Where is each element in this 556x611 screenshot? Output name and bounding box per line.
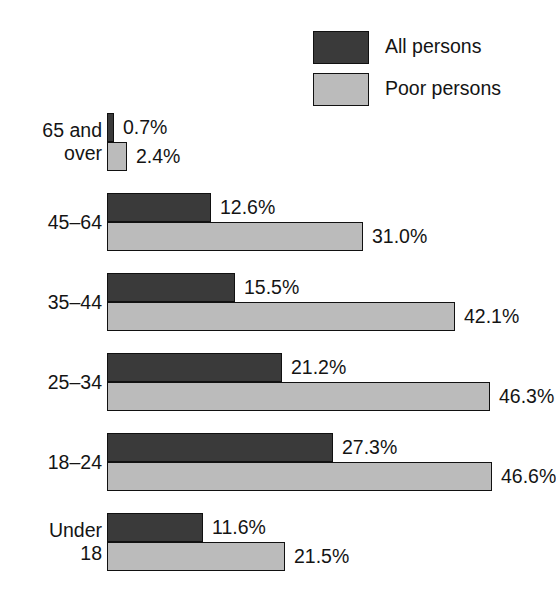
bar-value-label: 15.5% bbox=[244, 278, 299, 298]
bar-all-persons bbox=[107, 113, 114, 142]
bar-row: 46.6% bbox=[107, 462, 542, 491]
bar-row: 42.1% bbox=[107, 302, 542, 331]
bar-group: 35–4415.5%42.1% bbox=[0, 273, 542, 333]
category-label: 25–34 bbox=[0, 371, 102, 394]
bar-value-label: 12.6% bbox=[220, 198, 275, 218]
category-label: 65 and over bbox=[0, 119, 102, 165]
bar-all-persons bbox=[107, 353, 282, 382]
bar-group: 18–2427.3%46.6% bbox=[0, 433, 542, 493]
bar-value-label: 11.6% bbox=[212, 518, 266, 538]
bar-group: 45–6412.6%31.0% bbox=[0, 193, 542, 253]
bar-row: 21.5% bbox=[107, 542, 542, 571]
bar-group: 25–3421.2%46.3% bbox=[0, 353, 542, 413]
bar-value-label: 21.2% bbox=[291, 358, 346, 378]
bar-value-label: 31.0% bbox=[372, 227, 427, 247]
bar-all-persons bbox=[107, 273, 235, 302]
bar-row: 12.6% bbox=[107, 193, 542, 222]
category-label: Under 18 bbox=[0, 519, 102, 565]
bar-poor-persons bbox=[107, 302, 455, 331]
bar-value-label: 42.1% bbox=[464, 307, 519, 327]
bar-value-label: 46.3% bbox=[499, 387, 554, 407]
bar-row: 27.3% bbox=[107, 433, 542, 462]
bar-group: 65 and over0.7%2.4% bbox=[0, 113, 542, 173]
bar-group: Under 1811.6%21.5% bbox=[0, 513, 542, 573]
bar-row: 2.4% bbox=[107, 142, 542, 171]
bar-poor-persons bbox=[107, 462, 492, 491]
category-label: 45–64 bbox=[0, 211, 102, 234]
bar-row: 15.5% bbox=[107, 273, 542, 302]
bar-value-label: 0.7% bbox=[123, 118, 167, 138]
bar-value-label: 27.3% bbox=[342, 438, 397, 458]
bar-value-label: 21.5% bbox=[294, 547, 349, 567]
bar-all-persons bbox=[107, 433, 333, 462]
bar-row: 0.7% bbox=[107, 113, 542, 142]
bar-value-label: 46.6% bbox=[501, 467, 556, 487]
bar-all-persons bbox=[107, 193, 211, 222]
category-label: 35–44 bbox=[0, 291, 102, 314]
bar-row: 21.2% bbox=[107, 353, 542, 382]
bar-poor-persons bbox=[107, 542, 285, 571]
bar-poor-persons bbox=[107, 142, 127, 171]
bar-row: 46.3% bbox=[107, 382, 542, 411]
bar-value-label: 2.4% bbox=[136, 147, 180, 167]
bar-all-persons bbox=[107, 513, 203, 542]
bar-poor-persons bbox=[107, 222, 363, 251]
bar-row: 31.0% bbox=[107, 222, 542, 251]
bar-poor-persons bbox=[107, 382, 490, 411]
category-label: 18–24 bbox=[0, 451, 102, 474]
bar-row: 11.6% bbox=[107, 513, 542, 542]
